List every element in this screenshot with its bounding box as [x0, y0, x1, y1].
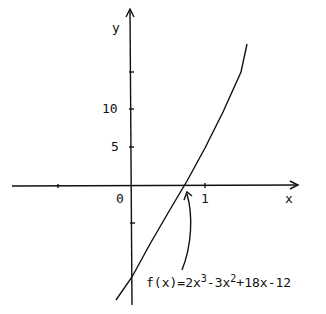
annotation-arrow: [182, 194, 191, 270]
function-label: f(x)=2x3-3x2+18x-12: [146, 274, 291, 289]
origin-label: 0: [116, 192, 124, 205]
y-axis: [130, 9, 132, 305]
y-tick-5: 5: [111, 140, 119, 153]
function-curve: [116, 44, 247, 300]
y-axis-label: y: [112, 21, 120, 34]
y-tick-10: 10: [102, 102, 118, 115]
x-tick-1: 1: [201, 192, 209, 205]
x-axis: [12, 185, 298, 186]
x-axis-label: x: [285, 192, 293, 205]
plot: [0, 0, 326, 314]
